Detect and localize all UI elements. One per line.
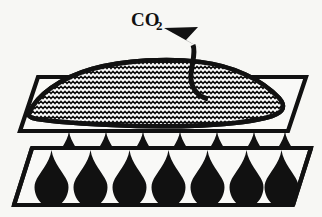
co2-label: CO 2 <box>131 9 163 33</box>
diagram-canvas: CO 2 <box>0 0 322 217</box>
co2-label-subscript: 2 <box>156 18 163 33</box>
diagram-svg: CO 2 <box>0 0 322 217</box>
